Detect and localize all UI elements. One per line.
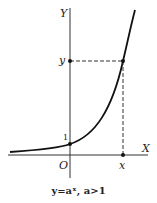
point-y: [68, 59, 72, 63]
exponential-curve: [10, 10, 135, 152]
y-axis-label: Y: [60, 8, 67, 19]
point-y-label: y: [59, 55, 65, 66]
point-x-label: x: [119, 160, 125, 171]
point-x: [121, 153, 125, 157]
point-intercept: [68, 142, 72, 146]
origin-label: O: [59, 160, 68, 171]
intercept-label: 1: [63, 134, 68, 142]
x-axis-label: X: [142, 143, 150, 154]
point-curve: [121, 59, 125, 63]
exponential-graph: [0, 0, 157, 203]
caption: y=aˣ, a>1: [0, 185, 157, 196]
